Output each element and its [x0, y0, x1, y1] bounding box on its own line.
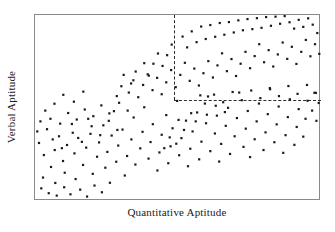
data-point [156, 77, 158, 79]
data-point [48, 192, 50, 194]
data-point [58, 135, 60, 137]
data-point [314, 43, 316, 45]
data-point [296, 93, 298, 95]
data-point [237, 19, 239, 21]
data-point [256, 120, 258, 122]
data-point [256, 17, 258, 19]
data-point [230, 58, 232, 60]
data-point [64, 172, 66, 174]
data-point [137, 96, 139, 98]
data-point [258, 43, 260, 45]
data-point [221, 52, 223, 54]
data-point [67, 112, 69, 114]
data-point [59, 123, 61, 125]
data-point [277, 53, 279, 55]
data-point [66, 144, 68, 146]
data-point [212, 76, 214, 78]
data-point [205, 122, 207, 124]
data-point [219, 22, 221, 24]
data-point [98, 141, 100, 143]
data-point [300, 51, 302, 53]
data-point [157, 52, 159, 54]
data-point [249, 156, 251, 158]
data-point [93, 184, 95, 186]
data-point [71, 123, 73, 125]
data-point [315, 92, 317, 94]
data-point [242, 146, 244, 148]
data-point [179, 74, 181, 76]
data-point [225, 125, 227, 127]
data-point [270, 25, 272, 27]
data-point [120, 85, 122, 87]
data-point [286, 58, 288, 60]
data-point [86, 195, 88, 197]
data-point [307, 17, 309, 19]
data-point [133, 116, 135, 118]
data-point [99, 134, 101, 136]
data-point [180, 137, 182, 139]
data-point [249, 67, 251, 69]
data-point [101, 191, 103, 193]
data-point [115, 161, 117, 163]
data-point [79, 189, 81, 191]
data-point [318, 102, 320, 104]
data-point [117, 144, 119, 146]
data-point [193, 67, 195, 69]
data-point [284, 15, 286, 17]
data-point [309, 55, 311, 57]
data-point [135, 70, 137, 72]
data-point [169, 136, 171, 138]
data-point [242, 29, 244, 31]
data-point [91, 125, 93, 127]
data-point [118, 102, 120, 104]
data-point [61, 147, 63, 149]
data-point [171, 43, 173, 45]
data-point [163, 147, 165, 149]
data-point [196, 111, 198, 113]
data-point [87, 118, 89, 120]
data-point [121, 128, 123, 130]
data-point [200, 25, 202, 27]
data-point [81, 141, 83, 143]
data-point [291, 46, 293, 48]
data-point [62, 94, 64, 96]
scatter-plot-figure: Quantitative Aptitude Verbal Aptitude [0, 0, 335, 232]
data-point [130, 138, 132, 140]
data-point [240, 63, 242, 65]
plot-frame [34, 14, 320, 200]
selection-vertical-dashed-line [174, 15, 175, 100]
data-point [113, 110, 115, 112]
data-point [183, 129, 185, 131]
data-point [108, 112, 110, 114]
data-point [73, 152, 75, 154]
data-point [282, 41, 284, 43]
data-point [142, 84, 144, 86]
data-point [72, 132, 74, 134]
data-point [186, 46, 188, 48]
data-point [123, 74, 125, 76]
data-point [288, 21, 290, 23]
data-point [207, 95, 209, 97]
data-point [238, 91, 240, 93]
data-point [82, 91, 84, 93]
data-point [278, 105, 280, 107]
data-point [254, 138, 256, 140]
data-point [42, 176, 44, 178]
data-point [96, 156, 98, 158]
data-point [46, 128, 48, 130]
data-point [130, 82, 132, 84]
data-point [293, 27, 295, 29]
data-point [143, 106, 145, 108]
data-point [265, 16, 267, 18]
data-point [151, 89, 153, 91]
data-point [311, 110, 313, 112]
data-point [279, 23, 281, 25]
data-point [156, 169, 158, 171]
data-point [272, 65, 274, 67]
data-point [171, 127, 173, 129]
data-point [177, 119, 179, 121]
data-point [161, 93, 163, 95]
data-point [302, 26, 304, 28]
data-point [169, 145, 171, 147]
data-point [178, 154, 180, 156]
